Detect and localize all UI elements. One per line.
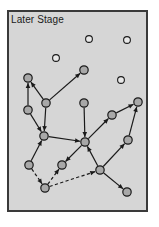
node-filled[interactable] (108, 111, 116, 119)
node-filled[interactable] (41, 184, 49, 192)
panel-title: Later Stage (11, 14, 64, 26)
figure-root: Later Stage (0, 0, 159, 227)
node-filled[interactable] (134, 98, 142, 106)
node-empty[interactable] (86, 36, 93, 43)
node-filled[interactable] (40, 132, 48, 140)
node-empty[interactable] (124, 37, 131, 44)
node-empty[interactable] (53, 55, 60, 62)
node-filled[interactable] (25, 161, 33, 169)
node-filled[interactable] (96, 166, 104, 174)
node-filled[interactable] (124, 136, 132, 144)
node-filled[interactable] (24, 74, 32, 82)
network-diagram (0, 0, 159, 227)
node-empty[interactable] (118, 77, 125, 84)
node-filled[interactable] (80, 99, 88, 107)
node-filled[interactable] (81, 138, 89, 146)
node-filled[interactable] (80, 66, 88, 74)
node-filled[interactable] (24, 106, 32, 114)
node-filled[interactable] (58, 161, 66, 169)
node-filled[interactable] (42, 99, 50, 107)
node-filled[interactable] (123, 188, 131, 196)
